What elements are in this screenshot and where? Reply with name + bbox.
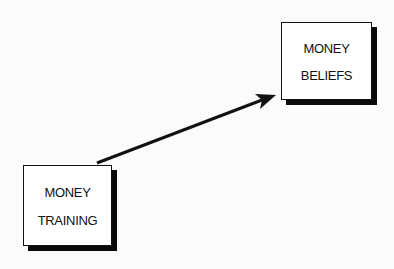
node-label-line-2: BELIEFS [301, 68, 352, 83]
arrow-training-to-beliefs [97, 94, 276, 163]
node-money-beliefs: MONEY BELIEFS [281, 22, 372, 100]
node-label-line-1: MONEY [303, 41, 349, 56]
node-label-line-2: TRAINING [38, 213, 98, 228]
node-money-training: MONEY TRAINING [23, 165, 112, 246]
node-label-line-1: MONEY [44, 185, 90, 200]
